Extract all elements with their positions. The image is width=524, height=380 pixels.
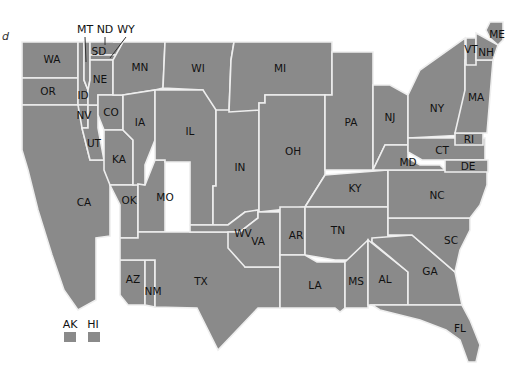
state-ka[interactable] bbox=[104, 130, 133, 185]
callout-wy: WY bbox=[117, 23, 135, 36]
callout-mt: MT bbox=[77, 23, 93, 36]
state-nm[interactable] bbox=[145, 260, 155, 307]
state-or[interactable] bbox=[22, 78, 78, 105]
state-nc[interactable] bbox=[388, 170, 487, 218]
state-de[interactable] bbox=[445, 160, 488, 172]
legend-swatch-hi[interactable] bbox=[88, 332, 100, 342]
state-co[interactable] bbox=[98, 95, 123, 130]
state-in[interactable] bbox=[213, 110, 259, 225]
state-ar[interactable] bbox=[280, 207, 305, 255]
us-state-map: d WA OR CA ID NV UT S bbox=[0, 0, 524, 380]
callout-nd: ND bbox=[97, 23, 114, 36]
state-ny[interactable] bbox=[408, 38, 465, 138]
state-fl[interactable] bbox=[372, 305, 480, 362]
corner-text-fragment: d bbox=[2, 30, 10, 43]
state-pa[interactable] bbox=[325, 52, 373, 170]
legend-label-hi: HI bbox=[87, 318, 99, 331]
state-mn[interactable] bbox=[113, 42, 165, 95]
state-wa[interactable] bbox=[22, 42, 78, 78]
legend-swatch-ak[interactable] bbox=[64, 332, 76, 342]
state-az[interactable] bbox=[120, 260, 145, 305]
state-ok[interactable] bbox=[110, 184, 138, 238]
state-vt[interactable] bbox=[466, 38, 476, 65]
legend-label-ak: AK bbox=[63, 318, 79, 331]
state-ri[interactable] bbox=[455, 133, 483, 145]
state-la[interactable] bbox=[280, 255, 345, 312]
